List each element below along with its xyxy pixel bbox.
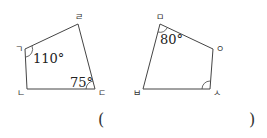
- answer-paren-close: ): [249, 110, 255, 129]
- angle-label-110: 110°: [33, 51, 64, 66]
- vertex-label-siot: ㅅ: [213, 88, 221, 98]
- answer-paren-open: (: [98, 110, 104, 129]
- vertex-label-digeut: ㄷ: [98, 88, 106, 98]
- vertex-label-giyeok: ㄱ: [15, 44, 23, 54]
- vertex-label-nieun: ㄴ: [17, 88, 25, 98]
- vertex-label-ieung: ㅇ: [216, 44, 224, 54]
- vertex-label-mieum: ㅁ: [156, 12, 164, 22]
- angle-label-75: 75°: [70, 75, 93, 90]
- vertex-label-bieup: ㅂ: [133, 88, 141, 98]
- angle-label-80: 80°: [160, 32, 183, 47]
- angle-arc-siot: [202, 81, 210, 89]
- answer-blank[interactable]: [108, 112, 246, 130]
- vertex-label-rieul: ㄹ: [75, 12, 83, 22]
